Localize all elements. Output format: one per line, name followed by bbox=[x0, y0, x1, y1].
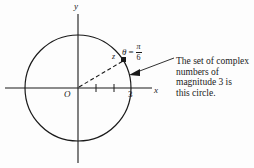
callout-leader-line bbox=[137, 58, 174, 72]
caption-line-1: The set of complex bbox=[176, 56, 254, 67]
fraction-denominator: 6 bbox=[136, 54, 142, 62]
equals-sign: = bbox=[128, 48, 133, 57]
fraction-numerator: π bbox=[136, 43, 142, 51]
caption-line-3: magnitude 3 is bbox=[176, 77, 254, 88]
theta-symbol: θ bbox=[122, 48, 126, 57]
caption-line-2: numbers of bbox=[176, 67, 254, 78]
x-tick-3-label: 3 bbox=[128, 90, 133, 99]
radius-dashed-line bbox=[79, 61, 123, 87]
callout-caption: The set of complex numbers of magnitude … bbox=[176, 56, 254, 98]
theta-equation: θ = π 6 bbox=[122, 43, 142, 62]
y-axis-label: y bbox=[74, 2, 78, 11]
complex-plane-figure: y x O 3 z θ = π 6 The set of complex num… bbox=[0, 0, 254, 168]
origin-label: O bbox=[64, 90, 71, 99]
angle-fraction: π 6 bbox=[136, 43, 142, 62]
point-z-label: z bbox=[112, 53, 115, 61]
caption-line-4: this circle. bbox=[176, 88, 254, 99]
x-axis-label: x bbox=[154, 86, 158, 95]
callout-arrowhead bbox=[129, 69, 140, 76]
